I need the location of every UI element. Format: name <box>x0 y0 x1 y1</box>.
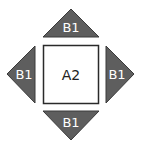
left-triangle: B1 <box>7 46 35 103</box>
left-triangle-label: B1 <box>15 67 32 82</box>
right-triangle: B1 <box>106 46 134 103</box>
center-square: A2 <box>44 46 99 104</box>
right-triangle-label: B1 <box>108 67 125 82</box>
top-triangle: B1 <box>43 9 99 37</box>
bottom-triangle: B1 <box>43 111 99 140</box>
diagram-canvas: B1 B1 B1 B1 A2 <box>0 0 144 150</box>
top-triangle-label: B1 <box>62 20 79 35</box>
center-square-label: A2 <box>62 67 80 83</box>
bottom-triangle-label: B1 <box>62 115 79 130</box>
